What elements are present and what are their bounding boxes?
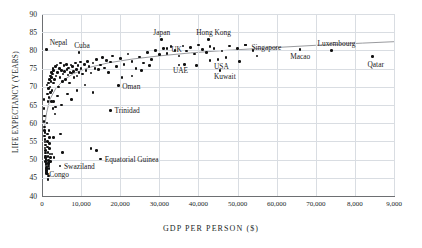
data-point — [61, 151, 64, 154]
x-axis-title: GDP PER PERSON ($) — [0, 224, 422, 233]
data-point-labeled — [45, 48, 48, 51]
data-point — [43, 129, 46, 132]
data-point — [140, 69, 143, 72]
data-point — [150, 58, 153, 61]
data-point — [54, 106, 57, 109]
gridline-horizontal — [42, 87, 394, 88]
gridline-horizontal — [42, 178, 394, 179]
data-point — [238, 60, 241, 63]
data-point — [135, 67, 138, 70]
gridline-horizontal — [42, 123, 394, 124]
data-point — [158, 53, 161, 56]
data-point-label: Equatorial Guinea — [105, 155, 159, 164]
data-point-label: Trinidad — [114, 106, 139, 115]
data-point — [71, 65, 74, 68]
data-point — [95, 58, 98, 61]
data-point — [53, 78, 56, 81]
data-point — [52, 136, 55, 139]
data-point — [75, 68, 78, 71]
data-point-labeled — [45, 171, 48, 174]
data-point — [95, 149, 98, 152]
data-point — [119, 57, 122, 60]
data-point — [47, 100, 50, 103]
data-point — [115, 65, 118, 68]
data-point-label: Macao — [290, 52, 310, 61]
x-axis-tick-label: 9,000 — [371, 200, 417, 208]
data-point — [236, 47, 239, 50]
data-point — [56, 71, 59, 74]
y-axis-tick-label: 55 — [11, 137, 37, 146]
data-point — [105, 59, 108, 62]
data-point-label: UAE — [173, 66, 188, 75]
data-point — [107, 71, 110, 74]
data-point — [205, 51, 208, 54]
data-point — [67, 67, 70, 70]
data-point — [148, 64, 151, 67]
data-point — [72, 70, 75, 73]
data-point — [189, 46, 192, 49]
data-point-labeled — [117, 84, 120, 87]
data-point — [52, 107, 55, 110]
data-point — [103, 67, 106, 70]
data-point — [70, 98, 73, 101]
data-point — [79, 61, 82, 64]
data-point-label: Japan — [153, 28, 170, 37]
gridline-horizontal — [42, 141, 394, 142]
data-point-labeled — [244, 44, 247, 47]
data-point-label: Singapore — [251, 43, 281, 52]
gridline-horizontal — [42, 105, 394, 106]
data-point-label: Oman — [122, 82, 140, 91]
plot-area: NepalCubaJapanUKHong KongSingaporeMacaoL… — [42, 14, 394, 196]
data-point — [97, 68, 100, 71]
y-axis-tick-label: 70 — [11, 82, 37, 91]
data-point-labeled — [109, 109, 112, 112]
data-point — [43, 115, 46, 118]
y-axis-tick-label: 90 — [11, 10, 37, 19]
gridline-horizontal — [42, 50, 394, 51]
y-axis-tick-label: 85 — [11, 28, 37, 37]
data-point — [57, 86, 60, 89]
data-point-label: Kuwait — [214, 72, 236, 81]
data-point-label: USA — [214, 62, 229, 71]
data-point-label: Nepal — [50, 38, 68, 47]
y-axis-tick-label: 75 — [11, 64, 37, 73]
data-point — [43, 98, 46, 101]
data-point — [201, 48, 204, 51]
data-point — [43, 126, 46, 129]
y-axis-tick-label: 80 — [11, 46, 37, 55]
data-point-labeled — [219, 69, 222, 72]
data-point — [86, 60, 89, 63]
data-point-label: Qatar — [367, 60, 383, 69]
data-point — [101, 56, 104, 59]
data-point — [111, 55, 114, 58]
y-axis-tick-label: 60 — [11, 119, 37, 128]
data-point — [64, 78, 67, 81]
data-point-labeled — [99, 158, 102, 161]
data-point — [92, 91, 95, 94]
data-point — [48, 147, 51, 150]
data-point — [48, 136, 51, 139]
data-point — [65, 63, 68, 66]
data-point — [50, 100, 53, 103]
data-point-labeled — [160, 38, 163, 41]
data-point-label: Congo — [49, 170, 69, 179]
data-point-label: UK — [171, 45, 182, 54]
data-point-labeled — [371, 55, 374, 58]
data-point — [154, 49, 157, 52]
data-point — [83, 63, 86, 66]
data-point — [48, 142, 51, 145]
data-point — [52, 100, 55, 103]
y-axis-tick-label: 45 — [11, 173, 37, 182]
data-point-labeled — [217, 58, 220, 61]
x-axis-line — [42, 196, 395, 197]
data-point-label: Luxembourg — [317, 39, 355, 48]
data-point — [225, 56, 228, 59]
data-point — [49, 156, 52, 159]
data-point — [195, 64, 198, 67]
data-point — [85, 69, 88, 72]
data-point — [162, 47, 165, 50]
data-point — [56, 95, 59, 98]
gridline-horizontal — [42, 14, 394, 15]
data-point — [90, 147, 93, 150]
gridline-vertical — [394, 14, 395, 196]
